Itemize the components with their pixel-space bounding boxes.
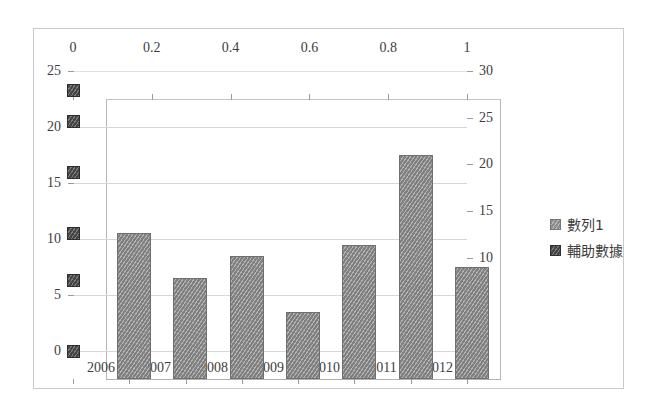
legend-item-series1[interactable]: 數列1 <box>550 211 648 237</box>
bar[interactable] <box>399 155 433 379</box>
axis-label-left: 0 <box>21 344 61 358</box>
bottom-axis-line <box>106 379 501 380</box>
axis-label-left: 15 <box>21 176 61 190</box>
axis-label-top: 0.4 <box>211 41 251 55</box>
bar[interactable] <box>286 312 320 379</box>
tick-bottom <box>467 379 468 384</box>
right-axis-line <box>500 99 501 380</box>
axis-label-top: 1 <box>447 41 487 55</box>
legend-label-helper: 輔助數據 <box>567 240 623 260</box>
chart-frame: 051015202505101520253000.20.40.60.812006… <box>33 28 624 389</box>
tick-bottom <box>186 379 187 384</box>
bar[interactable] <box>173 278 207 379</box>
data-marker[interactable] <box>67 166 80 179</box>
tick-left <box>68 71 74 72</box>
data-marker[interactable] <box>67 84 80 97</box>
tick-left <box>68 183 74 184</box>
axis-label-right: 30 <box>479 64 519 78</box>
axis-label-left: 5 <box>21 288 61 302</box>
plot-area <box>106 99 500 379</box>
bar[interactable] <box>117 233 151 379</box>
bar[interactable] <box>230 256 264 379</box>
legend-item-helper[interactable]: 輔助數據 <box>550 237 648 263</box>
data-marker[interactable] <box>67 227 80 240</box>
bar[interactable] <box>342 245 376 379</box>
data-marker[interactable] <box>67 345 80 358</box>
tick-bottom <box>242 379 243 384</box>
axis-label-top: 0.6 <box>289 41 329 55</box>
axis-label-left: 25 <box>21 64 61 78</box>
axis-label-top: 0 <box>53 41 93 55</box>
tick-bottom <box>298 379 299 384</box>
data-marker[interactable] <box>67 115 80 128</box>
legend-swatch-helper <box>550 245 561 256</box>
gridline-horizontal <box>73 71 467 72</box>
legend-label-series1: 數列1 <box>567 214 604 234</box>
legend-swatch-series1 <box>550 219 561 230</box>
tick-left <box>68 295 74 296</box>
tick-bottom <box>73 379 74 384</box>
tick-bottom <box>354 379 355 384</box>
axis-label-top: 0.2 <box>132 41 172 55</box>
tick-bottom <box>411 379 412 384</box>
data-marker[interactable] <box>67 274 80 287</box>
tick-bottom <box>129 379 130 384</box>
tick-right <box>467 71 473 72</box>
chart-legend: 數列1 輔助數據 <box>550 211 648 263</box>
axis-label-left: 20 <box>21 120 61 134</box>
axis-label-left: 10 <box>21 232 61 246</box>
bar[interactable] <box>455 267 489 379</box>
axis-label-top: 0.8 <box>368 41 408 55</box>
